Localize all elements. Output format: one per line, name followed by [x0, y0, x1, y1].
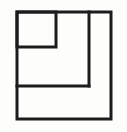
figure-canvas [0, 0, 127, 132]
geometric-figure-svg [0, 0, 127, 132]
outer-square [17, 12, 111, 119]
inner-top-left-square [17, 12, 56, 47]
